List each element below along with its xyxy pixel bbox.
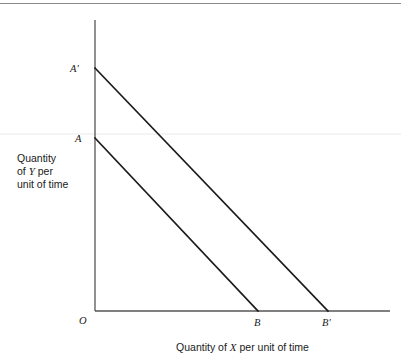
point-label-a: A — [75, 133, 82, 144]
x-axis-title-suffix: per unit of time — [237, 341, 309, 353]
y-axis-title-line-1: Quantity — [17, 152, 89, 165]
x-axis-title: Quantity of X per unit of time — [95, 341, 390, 354]
x-axis-title-prefix: Quantity of — [176, 341, 230, 353]
x-axis-variable: X — [230, 341, 237, 353]
budget-line-ab — [95, 138, 258, 311]
y-axis-title-line-2-prefix: of — [17, 165, 29, 177]
point-label-a-prime: A′ — [70, 63, 79, 74]
budget-line-ab-prime — [95, 68, 328, 311]
y-axis-title-line-3: unit of time — [17, 178, 89, 191]
y-axis-title-line-2: of Y per — [17, 165, 89, 178]
point-label-b-prime: B′ — [322, 317, 331, 328]
y-axis-title-line-2-suffix: per — [35, 165, 53, 177]
point-label-b: B — [254, 317, 261, 328]
point-label-origin: O — [79, 315, 87, 326]
y-axis-title: Quantity of Y per unit of time — [17, 152, 89, 191]
budget-line-figure: A′ A O B B′ Quantity of Y per unit of ti… — [0, 0, 401, 362]
